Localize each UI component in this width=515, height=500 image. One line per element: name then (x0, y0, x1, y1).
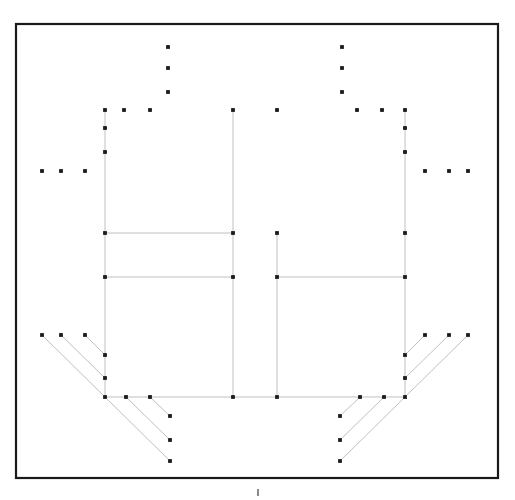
data-point (103, 376, 107, 380)
data-point (148, 108, 152, 112)
segment-right-fan-upper-2 (405, 335, 449, 378)
data-point (168, 414, 172, 418)
data-point (83, 169, 87, 173)
data-point (340, 90, 344, 94)
data-point (340, 45, 344, 49)
data-point (103, 275, 107, 279)
data-point (380, 108, 384, 112)
segment-group (42, 110, 468, 461)
segment-right-fan-upper-3 (405, 335, 425, 355)
data-point (275, 231, 279, 235)
data-point (403, 395, 407, 399)
data-point (403, 376, 407, 380)
figure-frame (16, 24, 498, 478)
data-point (338, 459, 342, 463)
data-point (338, 414, 342, 418)
data-point (231, 395, 235, 399)
data-point (403, 231, 407, 235)
segment-left-fan-upper-2 (61, 335, 105, 378)
data-point (103, 395, 107, 399)
data-point (355, 108, 359, 112)
data-point (423, 169, 427, 173)
data-point (423, 333, 427, 337)
data-point (103, 353, 107, 357)
data-point (122, 108, 126, 112)
data-point (231, 108, 235, 112)
data-point (83, 333, 87, 337)
data-point (166, 66, 170, 70)
data-point (466, 169, 470, 173)
data-point (447, 333, 451, 337)
data-point (231, 275, 235, 279)
data-point (447, 169, 451, 173)
data-point (103, 108, 107, 112)
data-point (403, 108, 407, 112)
data-point (40, 169, 44, 173)
data-point (124, 395, 128, 399)
data-point (275, 395, 279, 399)
segment-left-fan-lower-2 (126, 397, 170, 440)
segment-left-fan-upper-1 (42, 335, 105, 397)
data-point (403, 150, 407, 154)
data-point (275, 275, 279, 279)
data-point (168, 438, 172, 442)
figure-root (0, 0, 515, 500)
data-point (338, 438, 342, 442)
data-point (103, 231, 107, 235)
data-point (40, 333, 44, 337)
data-point (168, 459, 172, 463)
segment-left-fan-lower-3 (150, 397, 170, 416)
segment-left-fan-upper-3 (85, 335, 105, 355)
data-point (103, 150, 107, 154)
data-point (59, 169, 63, 173)
data-point (275, 108, 279, 112)
figure-canvas (0, 0, 515, 500)
data-point (403, 126, 407, 130)
data-point (466, 333, 470, 337)
data-point (103, 126, 107, 130)
data-point (166, 90, 170, 94)
data-point (59, 333, 63, 337)
data-point (231, 231, 235, 235)
segment-right-fan-lower-3 (340, 397, 360, 416)
segment-right-fan-lower-2 (340, 397, 384, 440)
data-point (340, 66, 344, 70)
data-point (358, 395, 362, 399)
data-point (382, 395, 386, 399)
data-point (403, 275, 407, 279)
data-point (166, 45, 170, 49)
data-point (148, 395, 152, 399)
segment-right-fan-upper-1 (405, 335, 468, 397)
data-point (403, 353, 407, 357)
